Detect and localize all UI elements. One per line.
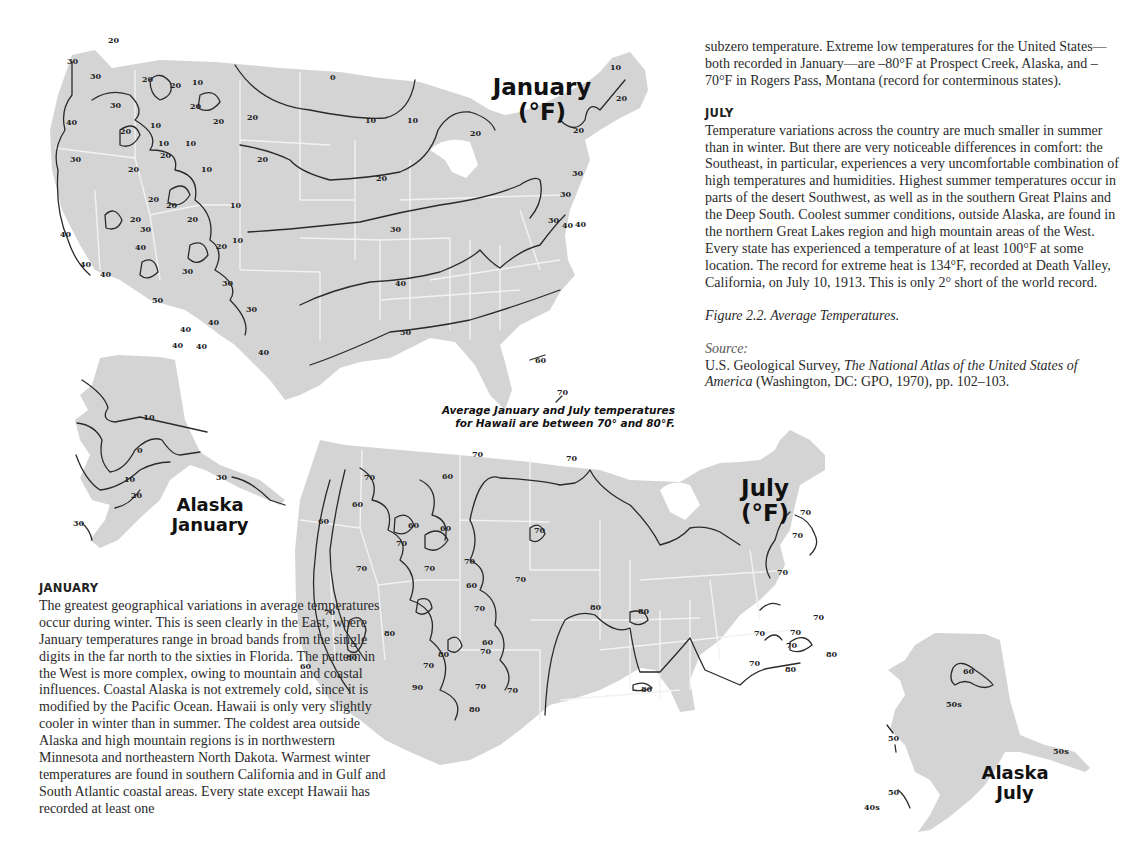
svg-text:50s: 50s [1053, 746, 1069, 756]
svg-text:70: 70 [813, 612, 825, 622]
svg-text:50: 50 [888, 787, 900, 797]
july-title-line2: (°F) [725, 501, 805, 526]
svg-text:70: 70 [777, 567, 789, 577]
svg-text:20: 20 [470, 128, 482, 138]
alaska-july-title: Alaska July [970, 763, 1060, 803]
svg-text:40: 40 [172, 340, 184, 350]
svg-text:0: 0 [137, 445, 143, 455]
right-text-column: subzero temperature. Extreme low tempera… [705, 39, 1123, 391]
svg-text:20: 20 [160, 150, 172, 160]
july-paragraph: Temperature variations across the countr… [705, 123, 1123, 292]
svg-text:10: 10 [201, 164, 213, 174]
svg-text:70: 70 [754, 628, 766, 638]
svg-text:40: 40 [60, 229, 72, 239]
july-heading: JULY [705, 105, 1123, 122]
svg-text:20: 20 [213, 116, 225, 126]
svg-text:70: 70 [534, 525, 546, 535]
svg-text:70: 70 [423, 660, 435, 670]
alaska-july-isotherm-50-south [898, 790, 910, 808]
svg-text:80: 80 [438, 649, 450, 659]
svg-text:30: 30 [246, 304, 258, 314]
alaska-january-title-line2: January [165, 515, 255, 535]
svg-text:60: 60 [440, 523, 452, 533]
continued-paragraph: subzero temperature. Extreme low tempera… [705, 39, 1123, 90]
svg-text:10: 10 [230, 200, 242, 210]
svg-text:60: 60 [352, 499, 364, 509]
svg-text:70: 70 [515, 574, 527, 584]
alaska-july-title-line1: Alaska [970, 763, 1060, 783]
svg-text:20: 20 [130, 214, 142, 224]
svg-text:10: 10 [124, 474, 136, 484]
january-title-line1: January [487, 75, 597, 100]
svg-text:60: 60 [408, 520, 420, 530]
svg-text:30: 30 [73, 518, 85, 528]
hawaii-note-line2: for Hawaii are between 70° and 80°F. [355, 417, 675, 430]
svg-text:20: 20 [376, 173, 388, 183]
svg-text:20: 20 [247, 112, 259, 122]
july-title-line1: July [725, 476, 805, 501]
svg-text:20: 20 [257, 154, 269, 164]
july-map-title: July (°F) [725, 476, 805, 527]
source-label: Source: [705, 341, 1123, 358]
svg-text:10: 10 [150, 120, 162, 130]
svg-text:10: 10 [158, 138, 170, 148]
svg-text:90: 90 [412, 682, 424, 692]
svg-text:70: 70 [749, 658, 761, 668]
svg-text:20: 20 [216, 241, 228, 251]
svg-text:30: 30 [560, 189, 572, 199]
svg-text:10: 10 [365, 115, 377, 125]
svg-text:30: 30 [67, 56, 79, 66]
svg-text:10: 10 [192, 77, 204, 87]
svg-text:70: 70 [472, 449, 484, 459]
hawaii-note-line1: Average January and July temperatures [355, 404, 675, 417]
svg-text:30: 30 [390, 224, 402, 234]
svg-text:70: 70 [507, 685, 519, 695]
svg-text:80: 80 [826, 649, 838, 659]
svg-text:40: 40 [395, 278, 407, 288]
svg-text:40: 40 [80, 259, 92, 269]
svg-text:-10: -10 [140, 412, 155, 422]
svg-text:70: 70 [790, 627, 802, 637]
svg-text:70: 70 [396, 538, 408, 548]
svg-text:30: 30 [572, 168, 584, 178]
svg-text:30: 30 [548, 215, 560, 225]
svg-text:30: 30 [70, 154, 82, 164]
svg-text:70: 70 [364, 472, 376, 482]
svg-text:40s: 40s [864, 802, 880, 812]
svg-text:20: 20 [142, 74, 154, 84]
source-author: U.S. Geological Survey, [705, 358, 844, 373]
svg-text:40: 40 [66, 117, 78, 127]
svg-text:20: 20 [120, 126, 132, 136]
svg-text:20: 20 [573, 125, 585, 135]
svg-text:30: 30 [216, 472, 228, 482]
svg-text:70: 70 [424, 563, 436, 573]
svg-text:50: 50 [152, 295, 164, 305]
january-heading: JANUARY [39, 580, 394, 597]
svg-text:70: 70 [475, 681, 487, 691]
svg-text:80: 80 [641, 684, 653, 694]
svg-text:50s: 50s [946, 699, 962, 709]
alaska-january-title-line1: Alaska [165, 495, 255, 515]
svg-text:50: 50 [400, 327, 412, 337]
alaska-january-title: Alaska January [165, 495, 255, 535]
svg-text:40: 40 [135, 242, 147, 252]
svg-text:30: 30 [140, 224, 152, 234]
january-paragraph: The greatest geographical variations in … [39, 598, 394, 818]
svg-text:30: 30 [90, 71, 102, 81]
svg-text:10: 10 [185, 138, 197, 148]
svg-text:40: 40 [196, 341, 208, 351]
svg-text:40: 40 [180, 324, 192, 334]
svg-text:70: 70 [566, 453, 578, 463]
svg-text:30: 30 [110, 100, 122, 110]
svg-text:20: 20 [108, 35, 120, 45]
svg-text:30: 30 [222, 278, 234, 288]
svg-text:10: 10 [610, 62, 622, 72]
svg-text:60: 60 [535, 355, 547, 365]
svg-text:60: 60 [963, 666, 975, 676]
svg-text:40: 40 [575, 219, 587, 229]
svg-text:30: 30 [182, 266, 194, 276]
svg-text:20: 20 [128, 164, 140, 174]
svg-text:10: 10 [232, 235, 244, 245]
svg-text:80: 80 [638, 606, 650, 616]
svg-text:70: 70 [480, 646, 492, 656]
